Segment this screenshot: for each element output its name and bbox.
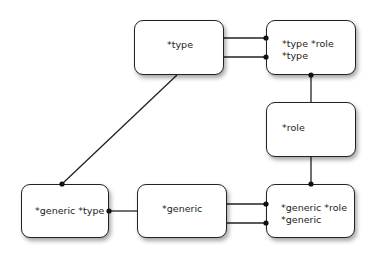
diagram-canvas: *type *type *role *type *role *generic *… — [0, 0, 377, 261]
connector-dot — [106, 208, 111, 213]
connector-dot — [308, 181, 313, 186]
connector-dot — [263, 35, 268, 40]
connector-dot — [59, 181, 64, 186]
connector-dot — [308, 72, 313, 77]
connector-dot — [263, 201, 268, 206]
connector-dot — [263, 54, 268, 59]
connector-dots-layer — [0, 0, 377, 261]
connector-dot — [263, 220, 268, 225]
